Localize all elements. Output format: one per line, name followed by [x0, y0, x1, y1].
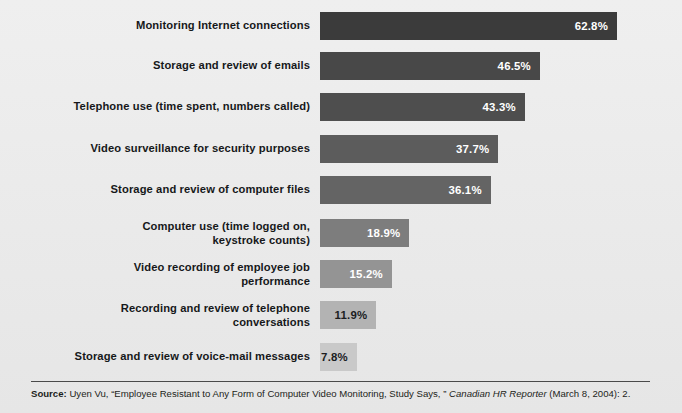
- chart-row: Storage and review of emails46.5%: [0, 52, 682, 80]
- horizontal-bar-chart: Monitoring Internet connections62.8%Stor…: [0, 0, 682, 372]
- category-label: Storage and review of computer files: [20, 183, 310, 197]
- bar-container: 11.9%: [320, 301, 376, 329]
- bar[interactable]: 7.8%: [320, 343, 357, 371]
- source-note: Source: Uyen Vu, “Employee Resistant to …: [31, 388, 661, 400]
- bar-value-label: 36.1%: [448, 184, 490, 196]
- bar[interactable]: 15.2%: [320, 260, 392, 288]
- bar-value-label: 18.9%: [367, 227, 409, 239]
- bar-value-label: 37.7%: [456, 143, 498, 155]
- bar-container: 37.7%: [320, 135, 498, 163]
- bar[interactable]: 37.7%: [320, 135, 498, 163]
- bar[interactable]: 62.8%: [320, 12, 617, 40]
- source-text-first: Uyen Vu, “Employee Resistant to Any Form…: [67, 388, 449, 399]
- footer-divider: [31, 381, 650, 382]
- chart-figure: Monitoring Internet connections62.8%Stor…: [0, 0, 682, 413]
- chart-row: Monitoring Internet connections62.8%: [0, 12, 682, 40]
- chart-row: Telephone use (time spent, numbers calle…: [0, 93, 682, 121]
- bar[interactable]: 46.5%: [320, 52, 540, 80]
- bar[interactable]: 11.9%: [320, 301, 376, 329]
- category-label: Video surveillance for security purposes: [20, 142, 310, 156]
- bar[interactable]: 18.9%: [320, 219, 409, 247]
- bar-value-label: 46.5%: [498, 60, 540, 72]
- chart-row: Storage and review of computer files36.1…: [0, 176, 682, 204]
- source-text-second: (March 8, 2004): 2.: [547, 388, 631, 399]
- bar-value-label: 62.8%: [575, 20, 617, 32]
- source-label: Source:: [31, 388, 67, 399]
- category-label: Storage and review of emails: [20, 59, 310, 73]
- bar[interactable]: 43.3%: [320, 93, 525, 121]
- bar-value-label: 11.9%: [335, 309, 377, 321]
- bar-value-label: 7.8%: [321, 351, 357, 363]
- bar-container: 15.2%: [320, 260, 392, 288]
- category-label: Video recording of employee job performa…: [20, 261, 310, 288]
- chart-row: Storage and review of voice-mail message…: [0, 343, 682, 371]
- bar-value-label: 15.2%: [350, 268, 392, 280]
- bar-container: 36.1%: [320, 176, 491, 204]
- chart-row: Computer use (time logged on, keystroke …: [0, 219, 682, 247]
- bar-container: 43.3%: [320, 93, 525, 121]
- category-label: Monitoring Internet connections: [20, 19, 310, 33]
- bar-container: 18.9%: [320, 219, 409, 247]
- category-label: Recording and review of telephone conver…: [20, 302, 310, 329]
- chart-row: Video surveillance for security purposes…: [0, 135, 682, 163]
- bar-container: 46.5%: [320, 52, 540, 80]
- bar-container: 7.8%: [320, 343, 357, 371]
- category-label: Telephone use (time spent, numbers calle…: [20, 100, 310, 114]
- chart-row: Video recording of employee job performa…: [0, 260, 682, 288]
- bar[interactable]: 36.1%: [320, 176, 491, 204]
- category-label: Computer use (time logged on, keystroke …: [20, 220, 310, 247]
- chart-row: Recording and review of telephone conver…: [0, 301, 682, 329]
- bar-container: 62.8%: [320, 12, 617, 40]
- source-publication: Canadian HR Reporter: [449, 388, 547, 399]
- bar-value-label: 43.3%: [482, 101, 524, 113]
- category-label: Storage and review of voice-mail message…: [20, 350, 310, 364]
